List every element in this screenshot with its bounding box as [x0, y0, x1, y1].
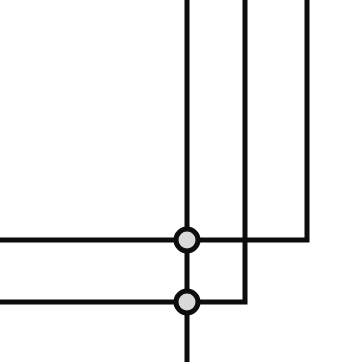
node-junction-lower[interactable]: [176, 291, 198, 313]
node-junction-upper[interactable]: [176, 229, 198, 251]
junction-diagram: [0, 0, 337, 362]
canvas-background: [0, 0, 337, 362]
diagram-canvas: [0, 0, 337, 362]
